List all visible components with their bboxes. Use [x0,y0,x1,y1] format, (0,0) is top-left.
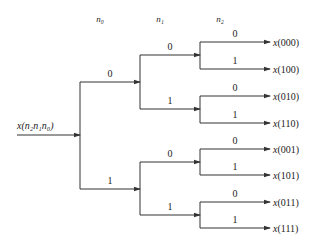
stage1-bit-label: 1 [108,175,113,186]
input-label: x(n₂n₁n₀) [16,120,54,132]
output-label: x(100) [272,64,299,76]
stage2-bit-label: 1 [168,95,173,106]
stage3-bit-label: 0 [233,28,238,39]
stage-header-0: n₀ [96,14,104,24]
stage3-bit-label: 0 [233,135,238,146]
output-label: x(111) [272,223,298,235]
stage3-bit-label: 1 [233,109,238,120]
tree-svg: x(n₂n₁n₀)n₀n₁n₂0101010x(000)1x(100)0x(01… [0,0,318,241]
stage-header-2: n₂ [216,14,224,24]
stage3-bit-label: 1 [233,214,238,225]
output-label: x(011) [272,197,299,209]
stage3-bit-label: 0 [233,82,238,93]
stage2-bit-label: 0 [168,148,173,159]
output-label: x(010) [272,91,299,103]
output-label: x(110) [272,118,299,130]
stage3-bit-label: 0 [233,188,238,199]
stage2-bit-label: 1 [168,201,173,212]
stage-header-1: n₁ [156,14,164,24]
output-label: x(101) [272,170,299,182]
output-label: x(000) [272,37,299,49]
output-label: x(001) [272,144,299,156]
stage1-bit-label: 0 [108,68,113,79]
stage3-bit-label: 1 [233,55,238,66]
stage2-bit-label: 0 [168,41,173,52]
bit-reversal-tree-diagram: x(n₂n₁n₀)n₀n₁n₂0101010x(000)1x(100)0x(01… [0,0,318,241]
stage3-bit-label: 1 [233,161,238,172]
